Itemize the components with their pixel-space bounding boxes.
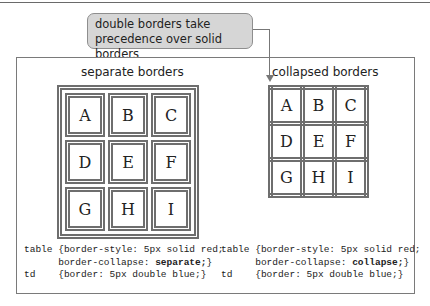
code-property: border-collapse: xyxy=(58,257,155,268)
code-selector: td xyxy=(221,269,232,280)
code-property: border-collapse: xyxy=(255,257,352,268)
table-row: G H I xyxy=(271,160,367,196)
table-cell: C xyxy=(151,93,191,137)
table-cell: E xyxy=(108,140,148,184)
table-cell: D xyxy=(65,140,105,184)
collapsed-borders-table: A B C D E F G H I xyxy=(268,85,369,198)
code-value-bold: separate; xyxy=(155,257,206,268)
separate-borders-table: A B C D E F G H I xyxy=(57,85,199,239)
table-cell: B xyxy=(303,88,335,124)
table-cell: G xyxy=(271,160,303,196)
collapsed-borders-title: collapsed borders xyxy=(272,65,379,79)
table-cell: H xyxy=(108,187,148,231)
code-selector: table xyxy=(221,244,250,255)
table-cell: A xyxy=(271,88,303,124)
table-cell: B xyxy=(108,93,148,137)
table-cell: D xyxy=(271,124,303,160)
table-cell: G xyxy=(65,187,105,231)
table-cell: F xyxy=(335,124,367,160)
table-cell: E xyxy=(303,124,335,160)
table-row: G H I xyxy=(65,187,191,231)
table-cell: I xyxy=(335,160,367,196)
separate-borders-title: separate borders xyxy=(81,65,184,79)
collapsed-css-code: table {border-style: 5px solid red; bord… xyxy=(221,244,421,282)
callout-note: double borders take precedence over soli… xyxy=(87,13,253,49)
table-cell: H xyxy=(303,160,335,196)
table-cell: I xyxy=(151,187,191,231)
code-rule: {border-style: 5px solid red; xyxy=(255,244,420,255)
table-row: D E F xyxy=(271,124,367,160)
code-rule: {border-style: 5px solid red; xyxy=(58,244,223,255)
code-rule: {border: 5px double blue;} xyxy=(255,269,403,280)
code-selector: td xyxy=(24,269,35,280)
callout-line-1: double borders take xyxy=(95,17,252,32)
table-cell: A xyxy=(65,93,105,137)
code-selector: table xyxy=(24,244,53,255)
code-rule: {border: 5px double blue;} xyxy=(58,269,206,280)
table-cell: C xyxy=(335,88,367,124)
separate-css-code: table {border-style: 5px solid red; bord… xyxy=(24,244,224,282)
table-row: A B C xyxy=(65,93,191,137)
table-row: A B C xyxy=(271,88,367,124)
code-brace: } xyxy=(206,257,212,268)
callout-connector xyxy=(253,29,270,30)
table-row: D E F xyxy=(65,140,191,184)
code-value-bold: collapse; xyxy=(352,257,403,268)
top-rule xyxy=(0,2,430,3)
table-cell: F xyxy=(151,140,191,184)
code-brace: } xyxy=(403,257,409,268)
